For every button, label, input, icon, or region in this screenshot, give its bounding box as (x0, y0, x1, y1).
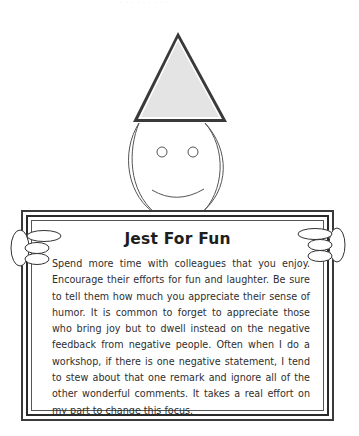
sign-title: Jest For Fun (23, 230, 332, 248)
sign-frame: Jest For Fun Spend more time with collea… (21, 210, 334, 421)
sign-body-text: Spend more time with colleagues that you… (52, 256, 310, 419)
smiley-face-icon (129, 123, 224, 214)
party-hat-icon (133, 32, 227, 122)
